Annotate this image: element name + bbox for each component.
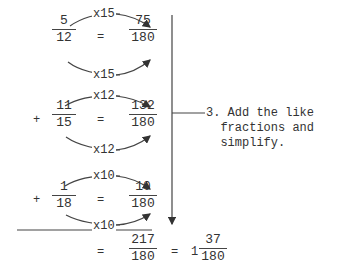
step-note-line: 3. Add the like [206,106,314,120]
numerator: 11 [52,99,76,113]
multiplier-top: x15 [92,7,116,21]
fraction-11-15: 1115 [52,99,76,130]
multiplier-top: x12 [92,89,116,103]
mixed-whole: 1 [191,245,198,259]
numerator: 75 [129,14,157,28]
numerator: 37 [199,233,227,247]
equals-sign: = [97,30,104,44]
fraction-75-180: 75180 [129,14,157,45]
denominator: 180 [129,31,157,45]
fraction-1-18: 118 [52,180,76,211]
multiplier-bottom: x12 [92,143,116,157]
equals-sign: = [97,245,104,259]
denominator: 15 [52,116,76,130]
fraction-10-180: 10180 [129,180,157,211]
equals-sign: = [171,245,178,259]
numerator: 132 [129,99,157,113]
numerator: 1 [52,180,76,194]
numerator: 5 [52,14,76,28]
multiplier-top: x10 [92,169,116,183]
fraction-217-180: 217180 [129,233,157,264]
denominator: 180 [129,197,157,211]
numerator: 217 [129,233,157,247]
equals-sign: = [97,193,104,207]
denominator: 18 [52,197,76,211]
numerator: 10 [129,180,157,194]
denominator: 180 [199,250,227,264]
step-note: 3. Add the like fractions and simplify. [206,106,314,151]
denominator: 180 [129,116,157,130]
fraction-37-180: 37180 [199,233,227,264]
step-note-line: simplify. [220,136,285,150]
multiplier-bottom: x15 [92,68,116,82]
equals-sign: = [97,113,104,127]
plus-sign: + [33,193,40,207]
fraction-132-180: 132180 [129,99,157,130]
fraction-5-12: 512 [52,14,76,45]
plus-sign: + [33,113,40,127]
multiplier-bottom: x10 [92,219,116,233]
denominator: 180 [129,250,157,264]
denominator: 12 [52,31,76,45]
step-note-line: fractions and [220,121,314,135]
